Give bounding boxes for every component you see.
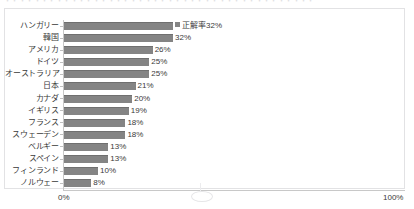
bar-value-label: 正解率32%: [175, 20, 222, 32]
y-axis-tick: [60, 98, 63, 99]
bar-track: [64, 131, 405, 139]
x-axis-max-label: 100%: [383, 193, 403, 202]
bar: [64, 179, 91, 187]
bar-row: カナダ20%: [5, 93, 414, 105]
bar-track: [64, 34, 405, 42]
bar-row: 日本21%: [5, 80, 414, 92]
category-label: カナダ: [5, 93, 59, 105]
clipped-title-text: ・・・・・・・・・・・・・・・・・・・・・・・・・・・・・・・・・・・・・・・・…: [4, 0, 414, 4]
bar: [64, 58, 149, 66]
bar-value-label: 26%: [155, 44, 171, 56]
bar-value-text: 正解率32%: [182, 21, 222, 30]
bar-value-label: 32%: [175, 32, 191, 44]
category-label: フィンランド: [5, 165, 59, 177]
bar-row: フィンランド10%: [5, 165, 414, 177]
y-axis-tick: [60, 26, 63, 27]
bar: [64, 143, 108, 151]
bar: [64, 119, 125, 127]
bar-row: イギリス19%: [5, 105, 414, 117]
y-axis-tick: [60, 74, 63, 75]
y-axis-tick: [60, 183, 63, 184]
bar-row: ドイツ25%: [5, 56, 414, 68]
bar-value-label: 25%: [151, 56, 167, 68]
bar-row: ベルギー13%: [5, 141, 414, 153]
bar-track: [64, 179, 405, 187]
x-axis-line: [63, 190, 405, 191]
category-label: ノルウェー: [5, 177, 59, 189]
bar-row: フランス18%: [5, 117, 414, 129]
y-axis-tick: [60, 86, 63, 87]
bar-row: アメリカ26%: [5, 44, 414, 56]
bar-value-label: 13%: [110, 141, 126, 153]
bar-row: ノルウェー8%: [5, 177, 414, 189]
bar: [64, 167, 98, 175]
y-axis-tick: [60, 50, 63, 51]
bar-value-label: 20%: [134, 93, 150, 105]
bar: [64, 82, 136, 90]
bar-track: [64, 46, 405, 54]
bar: [64, 131, 125, 139]
category-label: ドイツ: [5, 56, 59, 68]
bar-track: [64, 107, 405, 115]
y-axis-tick: [60, 134, 63, 135]
bar-value-label: 13%: [110, 153, 126, 165]
bar-value-label: 8%: [93, 177, 105, 189]
oval-artifact-icon: [191, 191, 213, 202]
bar-row: スペイン13%: [5, 153, 414, 165]
y-axis-tick: [60, 38, 63, 39]
legend-swatch-icon: [175, 22, 180, 27]
bar: [64, 34, 173, 42]
category-label: 日本: [5, 80, 59, 92]
bar: [64, 70, 149, 78]
y-axis-tick: [60, 62, 63, 63]
bar: [64, 95, 132, 103]
x-axis-min-label: 0%: [58, 193, 70, 202]
bar-value-label: 10%: [100, 165, 116, 177]
category-label: ベルギー: [5, 141, 59, 153]
bar-row: スウェーデン18%: [5, 129, 414, 141]
category-label: スペイン: [5, 153, 59, 165]
bar: [64, 155, 108, 163]
bar: [64, 46, 153, 54]
axis-artifact-stem: [200, 183, 201, 191]
bar: [64, 22, 173, 30]
y-axis-tick: [60, 122, 63, 123]
clipped-title-strip: ・・・・・・・・・・・・・・・・・・・・・・・・・・・・・・・・・・・・・・・・…: [0, 0, 414, 7]
category-label: アメリカ: [5, 44, 59, 56]
bar-row: 韓国32%: [5, 32, 414, 44]
bar-track: [64, 70, 405, 78]
category-label: スウェーデン: [5, 129, 59, 141]
bar-value-label: 18%: [127, 117, 143, 129]
bar-value-label: 21%: [138, 80, 154, 92]
bar-value-label: 18%: [127, 129, 143, 141]
bar-row: オーストラリア25%: [5, 68, 414, 80]
bar-track: [64, 119, 405, 127]
bar-row: ハンガリー正解率32%: [5, 20, 414, 32]
bar-value-label: 19%: [131, 105, 147, 117]
category-label: ハンガリー: [5, 20, 59, 32]
bar-track: [64, 22, 405, 30]
bar: [64, 107, 129, 115]
y-axis-tick: [60, 171, 63, 172]
category-label: イギリス: [5, 105, 59, 117]
chart-frame: ハンガリー正解率32%韓国32%アメリカ26%ドイツ25%オーストラリア25%日…: [4, 8, 405, 189]
bar-track: [64, 95, 405, 103]
y-axis-tick: [60, 159, 63, 160]
y-axis-tick: [60, 110, 63, 111]
category-label: フランス: [5, 117, 59, 129]
bar-track: [64, 58, 405, 66]
category-label: オーストラリア: [5, 68, 59, 80]
y-axis-tick: [60, 146, 63, 147]
bar-track: [64, 82, 405, 90]
bar-value-label: 25%: [151, 68, 167, 80]
category-label: 韓国: [5, 32, 59, 44]
bar-rows-container: ハンガリー正解率32%韓国32%アメリカ26%ドイツ25%オーストラリア25%日…: [5, 20, 414, 189]
